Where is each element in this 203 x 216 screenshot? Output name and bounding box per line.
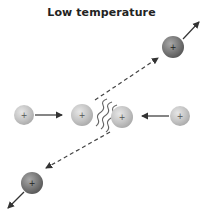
- arrow-top-right: [183, 22, 199, 39]
- particle-top-right: +: [162, 36, 184, 58]
- particle-right: +: [170, 106, 190, 126]
- particle-left: +: [14, 105, 34, 125]
- particle-center-right: +: [111, 106, 133, 128]
- particle-bottom-left: +: [21, 172, 43, 194]
- arrow-bottom-left: [8, 192, 24, 208]
- svg-text:+: +: [29, 179, 36, 188]
- collision-diagram: + + + + + +: [0, 0, 203, 216]
- svg-text:+: +: [119, 113, 126, 122]
- svg-text:+: +: [79, 111, 86, 120]
- svg-text:+: +: [177, 112, 184, 121]
- particle-center-left: +: [71, 104, 93, 126]
- dashed-trajectory: [46, 58, 158, 168]
- svg-text:+: +: [170, 43, 177, 52]
- svg-text:+: +: [21, 111, 28, 120]
